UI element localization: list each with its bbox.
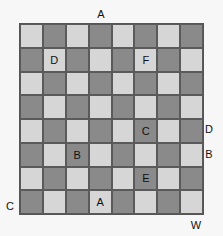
board-cell [43,72,66,96]
board-cell [20,24,43,48]
board-cell [43,190,66,214]
board-cell [43,143,66,167]
board-cell [89,95,112,119]
board-cell [157,119,180,143]
board-cell [43,167,66,191]
board-cell [89,143,112,167]
cell-label: C [142,125,150,137]
board-cell: E [134,167,157,191]
board-cell [112,190,135,214]
outer-label-left: C [6,200,14,212]
board-cell [180,72,203,96]
outer-label-bottom: W [191,219,201,231]
board-cell [157,72,180,96]
board-cell [157,48,180,72]
board-cell [112,167,135,191]
outer-label-right-1: D [205,123,213,135]
board-cell [134,95,157,119]
board-cell [89,24,112,48]
board-cell [89,48,112,72]
board-cell [180,119,203,143]
board-cell [20,48,43,72]
board-cell [112,143,135,167]
cell-label: A [96,196,103,208]
board-cell [20,190,43,214]
board-cell [89,167,112,191]
board-cell [66,72,89,96]
board-cell [157,190,180,214]
board-cell [134,24,157,48]
board-cell [20,167,43,191]
board-cell [157,167,180,191]
board-cell [112,24,135,48]
board-cell [43,24,66,48]
board-cell [66,24,89,48]
board-cell [180,48,203,72]
board-cell: C [134,119,157,143]
board-cell [20,72,43,96]
board-cell [157,143,180,167]
board-cell [112,119,135,143]
board-cell: B [66,143,89,167]
board-cell [66,190,89,214]
board-cell [112,48,135,72]
outer-label-top: A [97,8,104,20]
board-cell [66,119,89,143]
cell-label: B [74,149,81,161]
board-cell [89,119,112,143]
board-cell [134,72,157,96]
board-cell [134,143,157,167]
board-cell [112,95,135,119]
board-cell [20,143,43,167]
cell-label: F [142,54,149,66]
board-cell [43,119,66,143]
cell-label: D [50,54,58,66]
board-cell [112,72,135,96]
board-cell [66,95,89,119]
board-cell [43,95,66,119]
board-cell [66,48,89,72]
board-cell [20,119,43,143]
cell-label: E [142,172,149,184]
board-cell [157,24,180,48]
checkerboard-grid: DFCBEA [19,23,204,215]
board-cell [180,95,203,119]
board-cell [134,190,157,214]
board-cell [66,167,89,191]
board-cell [20,95,43,119]
board-cell [157,95,180,119]
board-cell [180,167,203,191]
board-cell [89,72,112,96]
board-cell: A [89,190,112,214]
board-cell: F [134,48,157,72]
board-cell [180,190,203,214]
board-cell [180,143,203,167]
board-cell [180,24,203,48]
outer-label-right-2: B [205,148,212,160]
board-cell: D [43,48,66,72]
